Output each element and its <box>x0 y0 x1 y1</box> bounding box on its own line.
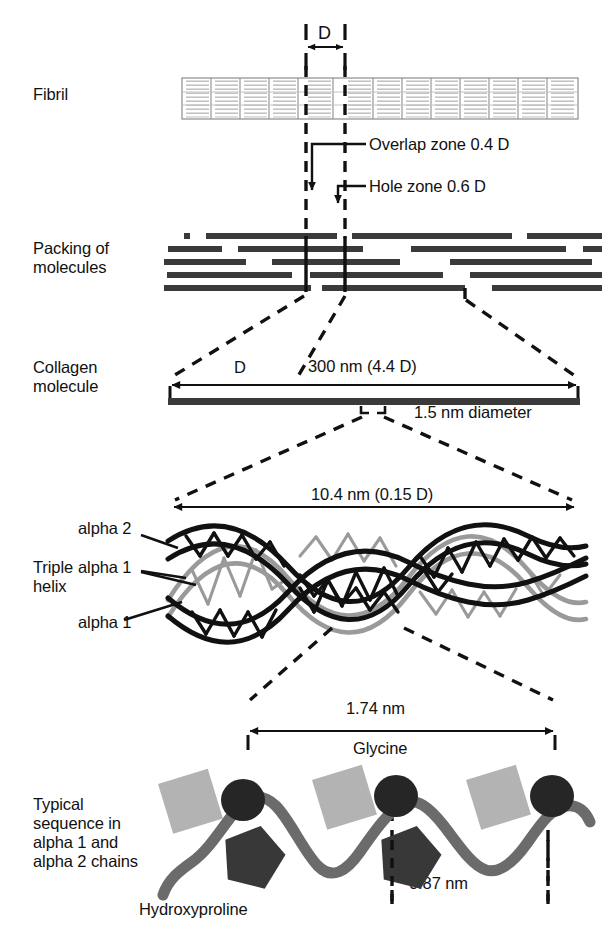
fibril-graphic <box>182 78 578 119</box>
zone-leader-lines <box>312 144 366 203</box>
projection-lines-helix <box>175 417 572 500</box>
residue-span-dimension <box>248 731 555 750</box>
projection-lines-sequence <box>250 628 553 700</box>
triple-helix-graphic <box>168 525 586 643</box>
collagen-hierarchy-diagram: Fibril Packing of molecules Collagen mol… <box>0 0 602 941</box>
projection-lines-molecule <box>170 296 578 378</box>
diagram-graphics <box>0 0 602 941</box>
side-group-square <box>158 765 531 834</box>
collagen-molecule-graphic <box>168 385 580 413</box>
sequence-graphic <box>158 765 590 895</box>
hydroxyproline-pentagon <box>216 818 447 891</box>
packing-graphic <box>164 233 602 291</box>
d-period-marker <box>306 24 345 70</box>
